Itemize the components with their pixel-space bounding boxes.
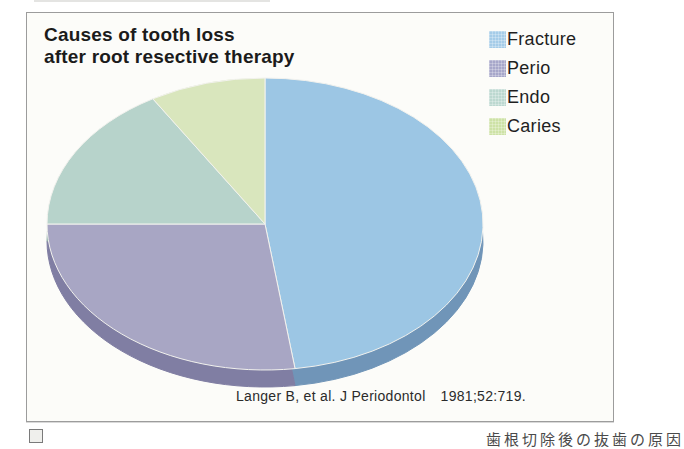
- fracture-swatch-icon: [489, 31, 506, 48]
- pie-slice-fracture: [265, 78, 483, 369]
- legend-label-caries: Caries: [507, 116, 561, 137]
- citation-source: Langer B, et al. J Periodontol: [236, 388, 426, 404]
- legend-item-caries: Caries: [489, 118, 576, 135]
- citation: Langer B, et al. J Periodontol1981;52:71…: [236, 388, 526, 404]
- cropped-caption-marker: [29, 429, 43, 443]
- legend: Fracture Perio Endo Caries: [489, 31, 576, 147]
- legend-label-fracture: Fracture: [507, 29, 576, 50]
- perio-swatch-icon: [489, 60, 506, 77]
- endo-swatch-icon: [489, 89, 506, 106]
- caries-swatch-icon: [489, 118, 506, 135]
- chart-title-line1: Causes of tooth loss: [44, 24, 295, 46]
- legend-item-perio: Perio: [489, 60, 576, 77]
- citation-ref: 1981;52:719.: [441, 388, 526, 404]
- legend-label-perio: Perio: [507, 58, 551, 79]
- pie-slice-perio: [47, 224, 295, 370]
- chart-title: Causes of tooth loss after root resectiv…: [44, 24, 295, 68]
- legend-item-endo: Endo: [489, 89, 576, 106]
- legend-label-endo: Endo: [507, 87, 550, 108]
- cropped-caption-fragment: 歯根切除後の抜歯の原因: [486, 428, 684, 449]
- chart-title-line2: after root resective therapy: [44, 46, 295, 68]
- legend-item-fracture: Fracture: [489, 31, 576, 48]
